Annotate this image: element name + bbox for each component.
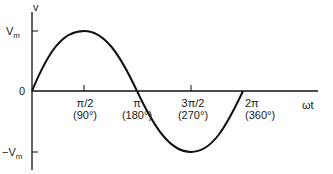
zero-label: 0 [19,85,25,97]
rad: π/2 [73,97,97,109]
deg: (180°) [122,109,152,121]
tick-label-pi-2: π/2(90°) [73,97,97,121]
vm-sub: m [13,31,20,40]
tick-label-2pi: 2π(360°) [245,97,275,121]
vm-label: Vm [6,25,20,42]
neg-vm-main: −V [2,146,16,158]
neg-vm-label: −Vm [2,146,22,163]
deg: (90°) [73,109,97,121]
deg: (270°) [178,109,208,121]
rad: 3π/2 [178,97,208,109]
sine-wave-plot [0,0,333,174]
rad: 2π [245,97,275,109]
rad: π [122,97,152,109]
y-axis-label: v [33,1,39,13]
x-axis-label: ωt [302,99,314,111]
neg-vm-sub: m [16,152,23,161]
tick-label-pi: π(180°) [122,97,152,121]
tick-label-3pi-2: 3π/2(270°) [178,97,208,121]
deg: (360°) [245,109,275,121]
